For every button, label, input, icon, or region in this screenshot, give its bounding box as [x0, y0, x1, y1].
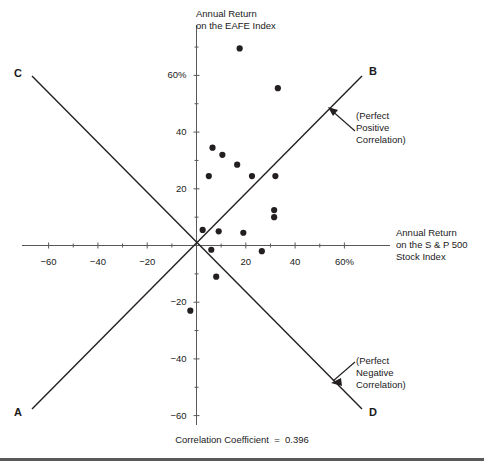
y-tick-label-40: 40 [145, 126, 187, 138]
x-tick-label--40: −40 [76, 256, 120, 268]
data-point [240, 230, 246, 236]
data-point [275, 85, 281, 91]
bottom-divider [0, 458, 484, 461]
x-tick-label--20: −20 [125, 256, 169, 268]
annotation-negative-line1: (Perfect [356, 355, 389, 367]
annotation-negative-line2: Negative [356, 367, 394, 379]
scatter-plot-figure: Annual Return on the EAFE Index Annual R… [0, 0, 484, 465]
x-tick-label-20: 20 [224, 256, 268, 268]
data-point [208, 247, 214, 253]
annotation-positive-line2: Positive [356, 122, 389, 134]
data-point [272, 173, 278, 179]
y-tick-label-20: 20 [145, 183, 187, 195]
data-point [216, 228, 222, 234]
correlation-caption: Correlation Coefficient = 0.396 [0, 434, 484, 446]
data-point [187, 308, 193, 314]
line-label-b: B [369, 66, 377, 78]
y-tick-label-60: 60% [145, 69, 187, 81]
data-point [237, 45, 243, 51]
line-label-c: C [14, 68, 22, 80]
x-tick-label-60: 60% [322, 256, 366, 268]
x-axis-title-line3: Stock Index [396, 251, 446, 263]
annotation-positive-line3: Correlation) [356, 134, 406, 146]
line-label-d: D [369, 407, 377, 419]
y-tick-label--60: −60 [145, 410, 187, 422]
data-point [213, 274, 219, 280]
axes-group [22, 25, 390, 425]
annotation-positive-line1: (Perfect [356, 110, 389, 122]
data-point [206, 173, 212, 179]
x-axis-title-line2: on the S & P 500 [396, 239, 468, 251]
data-point [234, 162, 240, 168]
y-axis-title-line1: Annual Return [196, 8, 257, 20]
data-point [209, 145, 215, 151]
y-tick-label--40: −40 [145, 353, 187, 365]
data-points-group [187, 45, 281, 313]
data-point [200, 227, 206, 233]
data-point [271, 207, 277, 213]
x-axis-title-line1: Annual Return [396, 227, 457, 239]
annotation-negative-line3: Correlation) [356, 379, 406, 391]
x-tick-label-40: 40 [273, 256, 317, 268]
line-label-a: A [14, 407, 22, 419]
data-point [249, 173, 255, 179]
data-point [219, 152, 225, 158]
y-axis-title-line2: on the EAFE Index [196, 20, 276, 32]
x-tick-label--60: −60 [27, 256, 71, 268]
data-point [271, 214, 277, 220]
annotation-arrows-group [328, 107, 355, 386]
y-tick-label--20: −20 [145, 296, 187, 308]
data-point [259, 248, 265, 254]
